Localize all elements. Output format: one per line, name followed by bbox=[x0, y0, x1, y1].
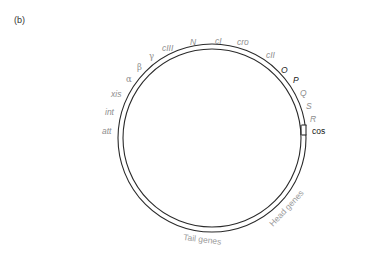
lambda-genome-diagram: (b) cos att int xis α β γ cIII N cI cro … bbox=[0, 0, 368, 260]
gene-P-label: P bbox=[293, 75, 299, 85]
gene-cII-label: cII bbox=[266, 50, 276, 60]
gene-int-label: int bbox=[105, 107, 115, 117]
head-genes-label: Head genes bbox=[267, 188, 306, 228]
gene-att-label: att bbox=[102, 126, 112, 136]
tail-genes-label: Tail genes bbox=[183, 232, 222, 247]
panel-label: (b) bbox=[14, 15, 25, 25]
gene-N-label: N bbox=[190, 37, 197, 47]
genome-inner-strand bbox=[123, 49, 301, 227]
gene-O-label: O bbox=[281, 65, 288, 75]
gene-alpha-label: α bbox=[126, 74, 132, 84]
genome-circle bbox=[118, 44, 306, 232]
gene-xis-label: xis bbox=[110, 89, 122, 99]
gene-cro-label: cro bbox=[237, 37, 249, 47]
gene-cI-label: cI bbox=[215, 36, 222, 46]
gene-gamma-label: γ bbox=[149, 51, 154, 61]
cos-site-marker bbox=[301, 125, 310, 135]
gene-Q-label: Q bbox=[300, 88, 307, 98]
gene-cIII-label: cIII bbox=[162, 43, 174, 53]
genome-outer-strand bbox=[118, 44, 306, 232]
gene-R-label: R bbox=[310, 114, 316, 124]
gene-S-label: S bbox=[306, 101, 312, 111]
cos-label: cos bbox=[312, 126, 325, 136]
gene-beta-label: β bbox=[137, 62, 142, 72]
